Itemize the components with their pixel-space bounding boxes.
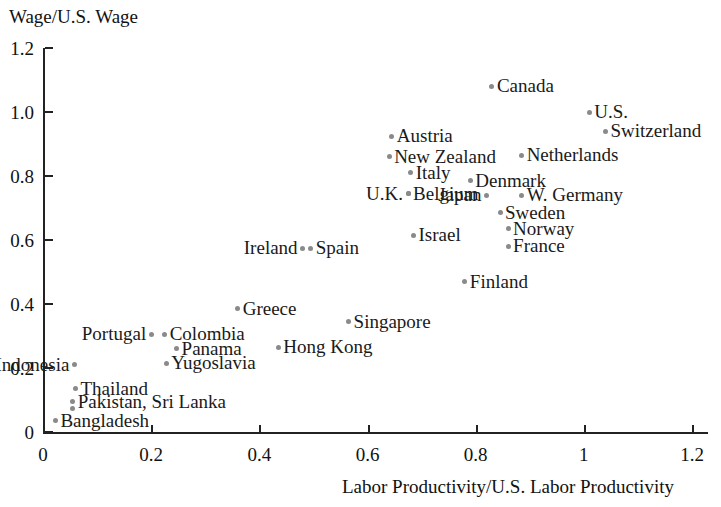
data-point-new-zealand[interactable] [387, 154, 392, 159]
point-label-u-k: U.K. [366, 184, 403, 203]
point-label-netherlands: Netherlands [527, 145, 619, 164]
x-tick-label: 0.4 [229, 445, 289, 464]
scatter-chart: Wage/U.S. Wage Labor Productivity/U.S. L… [0, 0, 721, 507]
data-point-israel[interactable] [411, 233, 416, 238]
point-label-greece: Greece [243, 299, 297, 318]
y-tick-label: 1.0 [0, 103, 34, 122]
data-point-portugal[interactable] [149, 332, 154, 337]
y-axis-title: Wage/U.S. Wage [9, 6, 138, 28]
data-point-switzerland[interactable] [603, 129, 608, 134]
data-point-canada[interactable] [489, 84, 494, 89]
data-point-singapore[interactable] [346, 319, 351, 324]
x-tick-label: 1.2 [662, 445, 721, 464]
point-label-bangladesh: Bangladesh [60, 411, 149, 430]
point-label-finland: Finland [470, 272, 528, 291]
data-point-belgium[interactable] [406, 191, 411, 196]
point-label-japan: Japan [438, 185, 481, 204]
y-tick-mark [45, 431, 53, 433]
y-axis-line [43, 48, 45, 434]
point-label-pakistan-sri-lanka: Pakistan, Sri Lanka [78, 392, 226, 411]
x-tick-label: 1 [554, 445, 614, 464]
data-point-france[interactable] [506, 244, 511, 249]
data-point-sweden[interactable] [498, 210, 503, 215]
x-tick-label: 0.8 [446, 445, 506, 464]
x-tick-label: 0.6 [338, 445, 398, 464]
data-point-spain[interactable] [308, 246, 313, 251]
data-point-netherlands[interactable] [519, 153, 524, 158]
data-point-w-germany[interactable] [519, 193, 524, 198]
data-point-finland[interactable] [462, 279, 467, 284]
data-point-ireland[interactable] [300, 246, 305, 251]
y-tick-mark [45, 111, 53, 113]
y-tick-mark [45, 47, 53, 49]
y-tick-mark [45, 239, 53, 241]
data-point-austria[interactable] [389, 134, 394, 139]
y-tick-label: 1.2 [0, 39, 34, 58]
data-point-yugoslavia[interactable] [164, 361, 169, 366]
point-label-israel: Israel [418, 225, 460, 244]
data-point-indonesia[interactable] [72, 362, 77, 367]
point-label-france: France [513, 236, 565, 255]
x-tick-mark [43, 425, 45, 434]
data-point-pakistan-sri-lanka[interactable] [70, 399, 75, 404]
point-label-hong-kong: Hong Kong [283, 337, 372, 356]
data-point-norway[interactable] [506, 226, 511, 231]
x-axis-line [43, 432, 708, 434]
y-tick-label: 0.6 [0, 231, 34, 250]
data-point-bangladesh[interactable] [53, 418, 58, 423]
data-point-japan[interactable] [484, 193, 489, 198]
plot-area: CanadaU.S.SwitzerlandAustriaNew ZealandN… [43, 48, 708, 434]
x-tick-mark [151, 425, 153, 434]
x-tick-mark [584, 425, 586, 434]
x-tick-mark [259, 425, 261, 434]
point-label-canada: Canada [497, 76, 554, 95]
data-point-colombia[interactable] [162, 332, 167, 337]
point-label-austria: Austria [397, 126, 453, 145]
y-tick-mark [45, 303, 53, 305]
point-label-switzerland: Switzerland [610, 121, 701, 140]
x-tick-mark [692, 425, 694, 434]
y-tick-mark [45, 175, 53, 177]
x-axis-title: Labor Productivity/U.S. Labor Productivi… [342, 476, 674, 498]
point-label-singapore: Singapore [354, 312, 431, 331]
x-tick-mark [476, 425, 478, 434]
data-point-panama[interactable] [174, 346, 179, 351]
data-point-greece[interactable] [235, 306, 240, 311]
y-tick-label: 0 [0, 423, 34, 442]
y-tick-label: 0.2 [0, 359, 34, 378]
y-tick-label: 0.4 [0, 295, 34, 314]
point-label-italy: Italy [416, 163, 451, 182]
point-label-portugal: Portugal [82, 324, 146, 343]
point-label-ireland: Ireland [244, 238, 298, 257]
point-label-spain: Spain [316, 238, 359, 257]
x-tick-label: 0 [13, 445, 73, 464]
x-tick-mark [368, 425, 370, 434]
x-tick-label: 0.2 [121, 445, 181, 464]
y-tick-label: 0.8 [0, 167, 34, 186]
data-point-italy[interactable] [408, 170, 413, 175]
data-point-u-s[interactable] [587, 110, 592, 115]
point-label-u-s: U.S. [594, 102, 628, 121]
point-label-yugoslavia: Yugoslavia [171, 353, 255, 372]
data-point-hong-kong[interactable] [276, 345, 281, 350]
